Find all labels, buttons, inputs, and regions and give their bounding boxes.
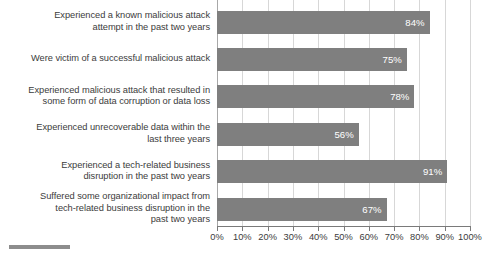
- bar-value-label: 78%: [390, 85, 409, 108]
- x-tick-label: 10%: [233, 231, 252, 243]
- gridline-70: [394, 0, 395, 226]
- x-tick-label: 90%: [435, 231, 454, 243]
- gridline-90: [445, 0, 446, 226]
- category-label: Experienced unrecoverable data within th…: [4, 122, 210, 145]
- category-label-line: tech-related business disruption in the: [4, 203, 210, 214]
- bar-row: 75%: [217, 48, 470, 71]
- gridline-50: [344, 0, 345, 226]
- category-label-column: Experienced a known malicious attackatte…: [0, 0, 214, 226]
- x-tick-label: 0%: [210, 231, 223, 243]
- x-tick-label: 100%: [458, 231, 482, 243]
- category-label: Experienced malicious attack that result…: [4, 85, 210, 108]
- category-label-line: some form of data corruption or data los…: [4, 96, 210, 107]
- bar-value-label: 75%: [383, 48, 402, 71]
- gridline-20: [268, 0, 269, 226]
- bar: 67%: [217, 198, 387, 221]
- category-label-line: Were victim of a successful malicious at…: [4, 53, 210, 64]
- page-artifact-bar: [9, 245, 70, 249]
- gridline-40: [318, 0, 319, 226]
- x-tick-label: 70%: [385, 231, 404, 243]
- bar-row: 56%: [217, 123, 470, 146]
- category-label: Were victim of a successful malicious at…: [4, 53, 210, 64]
- bar-row: 67%: [217, 198, 470, 221]
- x-tick-label: 40%: [309, 231, 328, 243]
- category-label-line: attempt in the past two years: [4, 22, 210, 33]
- x-tick-label: 50%: [334, 231, 353, 243]
- category-label: Experienced a known malicious attackatte…: [4, 10, 210, 33]
- category-label: Experienced a tech-related businessdisru…: [4, 160, 210, 183]
- category-label-line: Experienced malicious attack that result…: [4, 85, 210, 96]
- x-tick-label: 80%: [410, 231, 429, 243]
- x-tick-label: 20%: [258, 231, 277, 243]
- category-label-line: Experienced unrecoverable data within th…: [4, 122, 210, 133]
- bar-value-label: 67%: [362, 198, 381, 221]
- bar-row: 91%: [217, 160, 470, 183]
- category-label-line: last three years: [4, 134, 210, 145]
- bar: 78%: [217, 85, 414, 108]
- bar: 75%: [217, 48, 407, 71]
- bar-row: 78%: [217, 85, 470, 108]
- bar-value-label: 56%: [334, 123, 353, 146]
- plot-area: 84%75%78%56%91%67%: [217, 0, 470, 226]
- bar: 84%: [217, 11, 430, 34]
- gridline-30: [293, 0, 294, 226]
- category-label: Suffered some organizational impact from…: [4, 191, 210, 225]
- bar-value-label: 91%: [423, 160, 442, 183]
- gridline-100: [470, 0, 471, 226]
- bar: 56%: [217, 123, 359, 146]
- gridline-10: [242, 0, 243, 226]
- x-tick-label: 60%: [359, 231, 378, 243]
- bar-value-label: 84%: [405, 11, 424, 34]
- category-label-line: disruption in the past two years: [4, 171, 210, 182]
- category-label-line: Experienced a tech-related business: [4, 160, 210, 171]
- gridline-0: [217, 0, 218, 226]
- gridline-60: [369, 0, 370, 226]
- gridline-80: [419, 0, 420, 226]
- horizontal-bar-chart: Experienced a known malicious attackatte…: [0, 0, 488, 255]
- bar-row: 84%: [217, 11, 470, 34]
- category-label-line: Suffered some organizational impact from: [4, 191, 210, 202]
- category-label-line: past two years: [4, 214, 210, 225]
- x-tick-label: 30%: [284, 231, 303, 243]
- bar: 91%: [217, 160, 447, 183]
- category-label-line: Experienced a known malicious attack: [4, 10, 210, 21]
